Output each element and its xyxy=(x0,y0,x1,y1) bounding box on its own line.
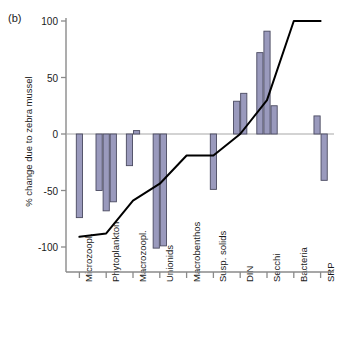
bar xyxy=(76,134,82,218)
bar xyxy=(126,134,132,166)
bar xyxy=(103,134,109,211)
cumulative-line-series xyxy=(79,21,320,237)
bar xyxy=(257,53,263,134)
bar xyxy=(96,134,102,191)
bar xyxy=(264,31,270,134)
bar xyxy=(271,106,277,134)
bar xyxy=(133,131,139,134)
chart-figure: (b) % change due to zebra mussel 100500-… xyxy=(0,0,341,349)
bar xyxy=(321,134,327,180)
plot-area xyxy=(0,0,341,349)
bar xyxy=(110,134,116,202)
bar xyxy=(210,134,216,189)
bar xyxy=(314,116,320,134)
bar xyxy=(160,134,166,246)
bar xyxy=(153,134,159,248)
bar xyxy=(234,101,240,134)
